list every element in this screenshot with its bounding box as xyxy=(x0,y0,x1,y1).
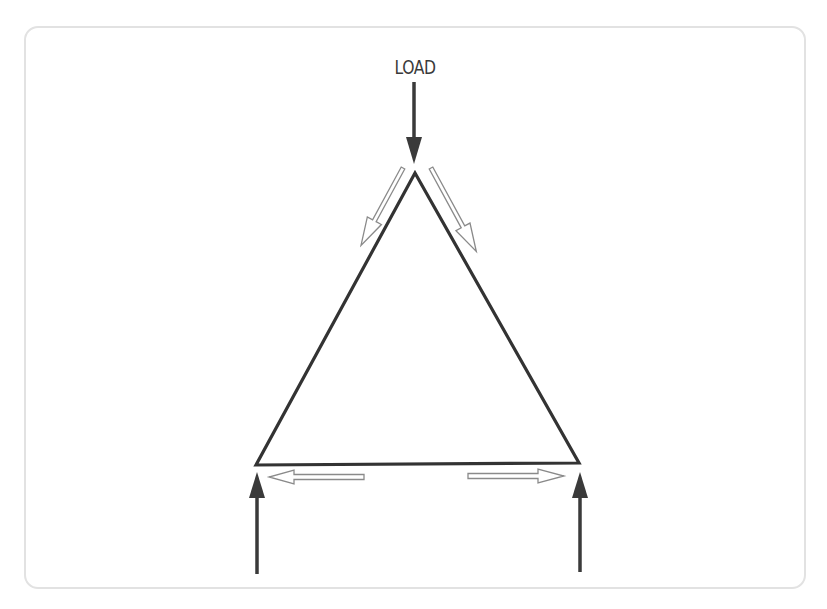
left-reaction-arrow-icon xyxy=(249,472,265,574)
triangle-truss xyxy=(256,173,579,465)
base-left-tension-arrow-icon xyxy=(269,470,364,484)
base-right-tension-arrow-icon xyxy=(468,469,564,483)
right-reaction-arrow-icon xyxy=(572,472,588,572)
truss-diagram xyxy=(0,0,827,609)
load-arrow-icon xyxy=(406,82,422,164)
